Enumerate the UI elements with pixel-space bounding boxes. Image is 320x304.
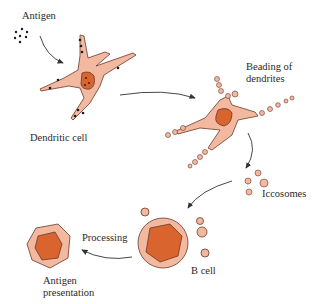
antigen-presenting-cell [27, 224, 70, 268]
label-dendritic-cell: Dendritic cell [30, 132, 87, 144]
beading-dendritic-cell [176, 96, 258, 150]
antigen-particles [14, 28, 28, 43]
label-antigen-presentation-2: presentation [43, 287, 94, 299]
antigen-processing-diagram: Antigen Dendritic cell Beading of dendri… [0, 0, 320, 304]
label-beading-line2: dendrites [246, 73, 285, 85]
b-cell [138, 208, 209, 268]
label-antigen: Antigen [22, 10, 56, 22]
label-beading-line1: Beading of [246, 61, 292, 73]
label-b-cell: B cell [191, 265, 216, 277]
label-antigen-presentation-1: Antigen [43, 275, 77, 287]
dendritic-cell [40, 35, 136, 120]
label-processing: Processing [82, 232, 128, 244]
diagram-canvas [0, 0, 320, 304]
label-iccosomes: Iccosomes [262, 188, 306, 200]
